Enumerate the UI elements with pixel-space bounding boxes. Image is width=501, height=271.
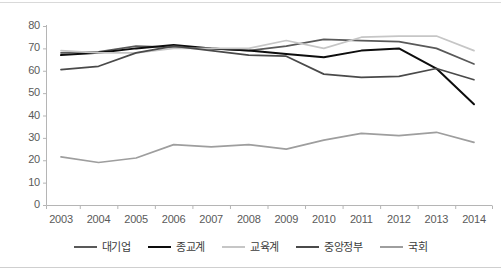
chart-screenshot: 0102030405060708020032004200520062007200… bbox=[0, 0, 501, 271]
y-axis-tick-label: 10 bbox=[14, 177, 40, 188]
y-axis-tick-label: 60 bbox=[14, 65, 40, 76]
x-axis-tick-label: 2014 bbox=[451, 214, 497, 225]
y-axis-tick-label: 70 bbox=[14, 42, 40, 53]
y-axis-tick-label: 20 bbox=[14, 154, 40, 165]
chart-legend: 대기업종교계교육계중앙정부국회 bbox=[0, 236, 501, 258]
legend-line-swatch bbox=[148, 246, 171, 248]
legend-line-swatch bbox=[222, 246, 245, 248]
legend-label: 국회 bbox=[408, 241, 427, 253]
y-axis-tick-label: 80 bbox=[14, 20, 40, 31]
legend-label: 교육계 bbox=[250, 241, 279, 253]
y-axis-tick-label: 0 bbox=[14, 199, 40, 210]
legend-label: 중앙정부 bbox=[324, 241, 363, 253]
line-chart-svg bbox=[0, 0, 501, 232]
legend-item-대기업[interactable]: 대기업 bbox=[74, 241, 131, 253]
series-line-국회 bbox=[61, 132, 474, 162]
legend-item-교육계[interactable]: 교육계 bbox=[222, 241, 279, 253]
y-axis-tick-label: 50 bbox=[14, 87, 40, 98]
y-axis-tick-label: 30 bbox=[14, 132, 40, 143]
legend-item-국회[interactable]: 국회 bbox=[380, 241, 427, 253]
legend-item-종교계[interactable]: 종교계 bbox=[148, 241, 205, 253]
chart-plot-area: 0102030405060708020032004200520062007200… bbox=[0, 0, 501, 232]
y-axis-tick-label: 40 bbox=[14, 110, 40, 121]
bottom-divider bbox=[0, 267, 501, 268]
legend-item-중앙정부[interactable]: 중앙정부 bbox=[296, 241, 363, 253]
series-line-종교계 bbox=[61, 45, 474, 104]
legend-line-swatch bbox=[74, 246, 97, 248]
legend-label: 종교계 bbox=[176, 241, 205, 253]
legend-line-swatch bbox=[380, 246, 403, 248]
legend-label: 대기업 bbox=[102, 241, 131, 253]
series-line-중앙정부 bbox=[61, 46, 474, 80]
legend-line-swatch bbox=[296, 246, 319, 248]
